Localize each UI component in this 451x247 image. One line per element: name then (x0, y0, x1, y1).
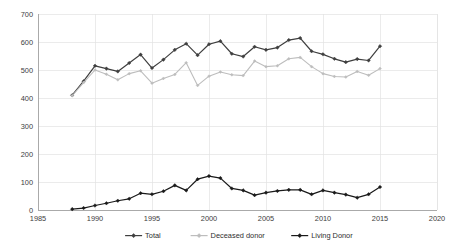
data-point-marker (344, 193, 348, 197)
data-point-marker (333, 57, 337, 61)
x-tick-label: 2020 (429, 214, 445, 223)
series-group (70, 36, 381, 211)
data-point-marker (344, 60, 348, 64)
data-point-marker (93, 204, 97, 208)
y-tick-label: 100 (21, 178, 33, 187)
data-point-marker (162, 77, 165, 80)
y-tick-label: 200 (21, 150, 33, 159)
data-point-marker (253, 193, 257, 197)
data-point-marker (132, 234, 136, 238)
y-tick-label: 300 (21, 122, 33, 131)
x-tick-label: 2005 (258, 214, 274, 223)
chart-legend: TotalDeceased donorLiving Donor (125, 231, 353, 240)
data-point-marker (321, 53, 325, 57)
x-tick-label: 1995 (144, 214, 160, 223)
data-point-marker (333, 75, 336, 78)
data-point-marker (241, 189, 245, 193)
data-point-marker (207, 174, 211, 178)
data-point-marker (219, 70, 222, 73)
y-tick-label: 500 (21, 66, 33, 75)
data-point-marker (298, 234, 302, 238)
series-2 (71, 56, 382, 97)
x-tick-labels: 19851990199520002005201020152020 (30, 214, 445, 223)
data-point-marker (310, 193, 314, 197)
data-point-marker (298, 188, 302, 192)
x-tick-label: 2015 (372, 214, 388, 223)
y-tick-label: 600 (21, 38, 33, 47)
y-tick-labels: 7006005004003002001000 (21, 10, 33, 215)
y-tick-label: 700 (21, 10, 33, 19)
gridlines-group (38, 14, 437, 210)
data-point-marker (82, 206, 86, 210)
y-tick-label: 400 (21, 94, 33, 103)
legend-item-label[interactable]: Living Donor (311, 231, 353, 240)
x-tick-label: 1985 (30, 214, 46, 223)
data-point-marker (355, 57, 359, 61)
data-point-marker (355, 196, 359, 200)
chart-page: 7006005004003002001000 19851990199520002… (0, 0, 451, 247)
x-tick-label: 2000 (201, 214, 217, 223)
data-point-marker (150, 193, 154, 197)
data-point-marker (333, 191, 337, 195)
data-point-marker (321, 189, 325, 193)
data-point-marker (264, 48, 268, 52)
data-point-marker (276, 189, 280, 193)
legend-item-label[interactable]: Total (145, 231, 161, 240)
data-point-marker (70, 207, 74, 211)
data-point-marker (264, 191, 268, 195)
data-point-marker (197, 234, 201, 238)
data-point-marker (230, 73, 233, 76)
data-point-marker (105, 201, 109, 205)
series-line (72, 38, 380, 95)
x-tick-label: 1990 (87, 214, 103, 223)
series-3 (70, 174, 381, 211)
series-1 (70, 36, 381, 97)
axes-group (38, 14, 437, 210)
data-point-marker (116, 199, 120, 203)
x-tick-label: 2010 (315, 214, 331, 223)
legend-item-label[interactable]: Deceased donor (211, 231, 266, 240)
line-chart: 7006005004003002001000 19851990199520002… (0, 0, 451, 247)
data-point-marker (287, 188, 291, 192)
